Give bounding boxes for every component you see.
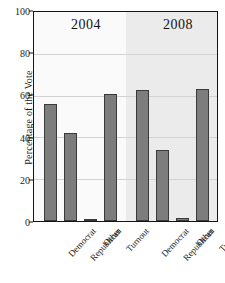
bar — [156, 150, 169, 221]
gridline — [34, 179, 217, 180]
y-axis-tick-labels: 100 80 60 40 20 0 — [0, 11, 30, 222]
gridline — [34, 54, 217, 55]
y-tick-label: 100 — [0, 6, 30, 17]
y-tick-label: 20 — [0, 174, 30, 185]
bar — [196, 89, 209, 222]
plot-area — [33, 11, 218, 222]
x-tick-label: Turnout — [125, 226, 152, 254]
y-tick-label: 40 — [0, 132, 30, 143]
bar — [136, 90, 149, 221]
gridline — [34, 96, 217, 97]
gridline — [34, 137, 217, 138]
group-label-2004: 2004 — [56, 17, 116, 33]
bar — [176, 218, 189, 221]
bar — [104, 94, 117, 221]
y-tick-label: 80 — [0, 48, 30, 59]
bar — [84, 219, 97, 221]
x-tick-label: Turnout — [217, 226, 225, 254]
bar-chart-figure: Percentage of the Vote 100 80 60 40 20 0… — [0, 0, 225, 283]
bar — [44, 104, 57, 221]
y-tick-label: 0 — [0, 217, 30, 228]
bar — [64, 133, 77, 221]
group-label-2008: 2008 — [148, 17, 208, 33]
x-tick-label: Other — [102, 226, 123, 248]
y-tick-label: 60 — [0, 90, 30, 101]
